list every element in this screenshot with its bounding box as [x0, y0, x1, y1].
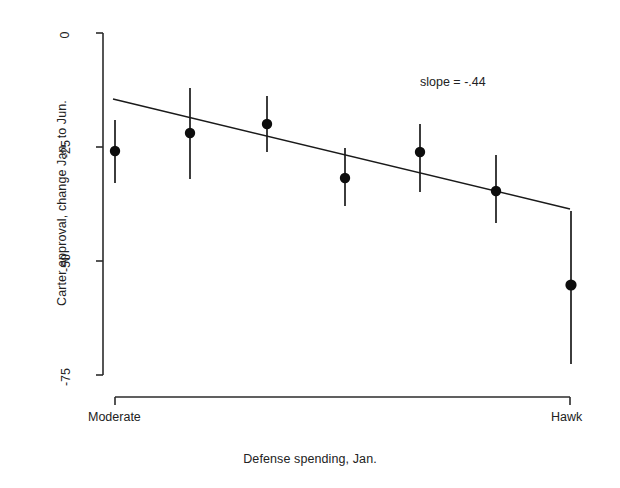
- chart-figure: 0 -25 -50 -75 Carter approval, change Ja…: [0, 0, 620, 488]
- fit-line: [113, 99, 570, 209]
- data-point-2: [185, 128, 195, 138]
- data-series: [110, 88, 577, 364]
- data-point-5: [415, 147, 425, 157]
- data-point-7: [565, 279, 576, 290]
- data-point-group-1: [110, 120, 120, 183]
- data-point-4: [340, 173, 350, 183]
- data-point-group-2: [185, 88, 195, 179]
- y-axis: [96, 33, 103, 375]
- x-category-label-hawk: Hawk: [551, 410, 582, 424]
- data-point-6: [491, 186, 501, 196]
- data-point-1: [110, 146, 120, 156]
- y-axis-title: Carter approval, change Jan. to Jun.: [55, 53, 69, 353]
- data-point-group-5: [415, 124, 425, 192]
- least-squares-fit-line: [113, 99, 570, 209]
- data-point-3: [262, 119, 272, 129]
- data-point-group-7: [565, 211, 576, 364]
- data-point-group-3: [262, 96, 272, 152]
- data-point-group-6: [491, 155, 501, 223]
- data-point-group-4: [340, 148, 350, 206]
- x-category-label-moderate: Moderate: [88, 410, 141, 424]
- x-axis-title: Defense spending, Jan.: [0, 452, 620, 466]
- x-axis: [115, 397, 570, 405]
- y-tick-label-minus75: -75: [59, 368, 73, 386]
- slope-annotation: slope = -.44: [420, 75, 486, 89]
- y-tick-label-0: 0: [58, 32, 72, 39]
